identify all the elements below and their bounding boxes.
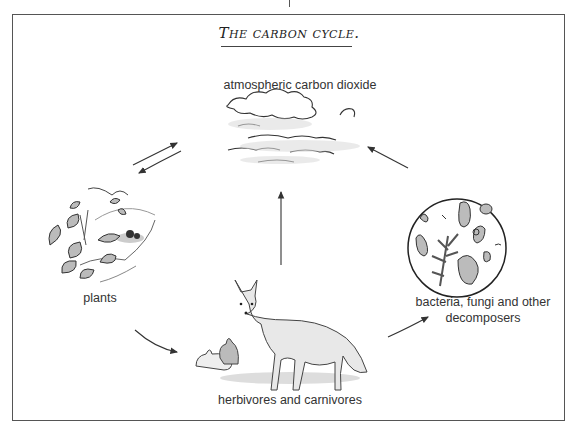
cloud-shading xyxy=(228,118,360,164)
decomposers-illustration xyxy=(408,199,506,297)
arrow-plants-to-animals xyxy=(135,330,177,352)
arrow-decomposers-to-atmosphere xyxy=(368,147,408,168)
diagram-artwork xyxy=(0,0,578,436)
label-decomposers-line1: bacteria, fungi and other xyxy=(388,294,578,310)
arrow-plants-to-atmosphere xyxy=(133,143,177,165)
animals-illustration xyxy=(196,280,367,390)
label-plants: plants xyxy=(60,290,140,306)
plants-illustration xyxy=(49,188,155,282)
label-herbivores-and-carnivores: herbivores and carnivores xyxy=(190,392,390,408)
label-atmospheric-carbon-dioxide: atmospheric carbon dioxide xyxy=(200,77,400,93)
arrow-atmosphere-to-plants xyxy=(139,151,181,173)
label-decomposers-line2: decomposers xyxy=(388,310,578,326)
